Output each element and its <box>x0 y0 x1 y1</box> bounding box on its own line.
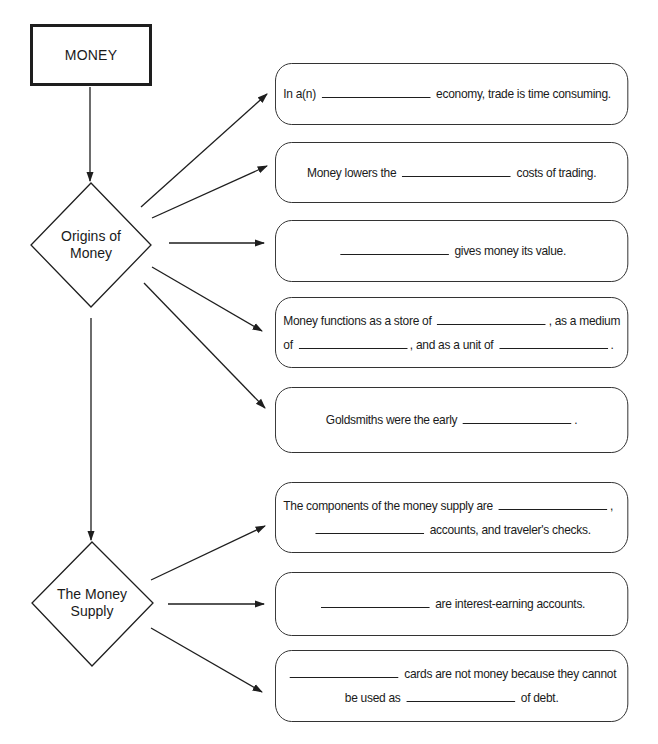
note-text: be used as <box>345 690 401 705</box>
note-text: The components of the money supply are <box>283 498 493 513</box>
supply-label-line-1: The Money <box>42 586 142 603</box>
note-line: of , and as a unit of . <box>276 333 627 357</box>
fill-in-blank[interactable] <box>340 242 449 255</box>
supply-label-line-2: Supply <box>42 603 142 620</box>
fill-in-blank[interactable] <box>321 595 430 608</box>
note-text: . <box>574 412 577 427</box>
note-line: be used as of debt. <box>276 686 627 710</box>
fill-in-blank[interactable] <box>499 497 608 510</box>
fill-in-blank[interactable] <box>406 689 515 702</box>
note-line: gives money its value. <box>276 239 627 263</box>
note-functions-of-money: Money functions as a store of , as a med… <box>275 297 628 368</box>
note-text: Money functions as a store of <box>283 313 431 328</box>
note-line: Money lowers the costs of trading. <box>276 161 627 185</box>
note-line: are interest-earning accounts. <box>276 592 627 616</box>
origins-arrow-5 <box>144 283 265 408</box>
note-text: In a(n) <box>283 86 316 101</box>
fill-in-blank[interactable] <box>322 85 431 98</box>
origins-arrow-1 <box>141 94 267 207</box>
note-text: economy, trade is time consuming. <box>436 86 611 101</box>
note-text: of debt. <box>521 690 559 705</box>
origins-label-line-1: Origins of <box>41 228 141 245</box>
origins-label-line-2: Money <box>41 245 141 262</box>
fill-in-blank[interactable] <box>463 411 572 424</box>
note-text: . <box>610 337 613 352</box>
fill-in-blank[interactable] <box>437 312 546 325</box>
note-text: costs of trading. <box>517 165 597 180</box>
root-label: MONEY <box>65 47 117 63</box>
note-line: accounts, and traveler's checks. <box>276 518 627 542</box>
note-line: Goldsmiths were the early . <box>276 408 627 432</box>
note-text: , as a medium <box>549 313 621 328</box>
fill-in-blank[interactable] <box>499 336 608 349</box>
note-text: Money lowers the <box>307 165 396 180</box>
note-text: of <box>283 337 292 352</box>
fill-in-blank[interactable] <box>315 521 424 534</box>
supply-arrow-3 <box>151 628 262 692</box>
supply-arrow-1 <box>151 526 265 580</box>
origins-arrow-2 <box>152 166 267 218</box>
money-supply-label: The Money Supply <box>42 586 142 620</box>
fill-in-blank[interactable] <box>402 164 511 177</box>
note-line: Money functions as a store of , as a med… <box>276 309 627 333</box>
note-transaction-costs: Money lowers the costs of trading. <box>275 142 628 203</box>
fill-in-blank[interactable] <box>290 665 399 678</box>
note-text: are interest-earning accounts. <box>435 596 585 611</box>
note-text: cards are not money because they cannot <box>404 666 616 681</box>
note-interest-earning-accounts: are interest-earning accounts. <box>275 572 628 636</box>
note-line: cards are not money because they cannot <box>276 662 627 686</box>
note-text: , and as a unit of <box>410 337 493 352</box>
note-money-supply-components: The components of the money supply are ,… <box>275 482 628 553</box>
origins-arrow-4 <box>152 267 262 331</box>
note-line: The components of the money supply are , <box>276 494 627 518</box>
fill-in-blank[interactable] <box>299 336 408 349</box>
note-goldsmiths: Goldsmiths were the early . <box>275 387 628 453</box>
note-credit-cards: cards are not money because they cannot … <box>275 650 628 722</box>
note-text: Goldsmiths were the early <box>326 412 457 427</box>
note-text: , <box>610 498 613 513</box>
origins-of-money-label: Origins of Money <box>41 228 141 262</box>
note-barter-economy: In a(n) economy, trade is time consuming… <box>275 63 628 125</box>
note-line: In a(n) economy, trade is time consuming… <box>276 82 627 106</box>
note-text: gives money its value. <box>454 243 566 258</box>
note-money-value: gives money its value. <box>275 220 628 282</box>
note-text: accounts, and traveler's checks. <box>430 522 591 537</box>
root-node-money: MONEY <box>30 24 152 86</box>
